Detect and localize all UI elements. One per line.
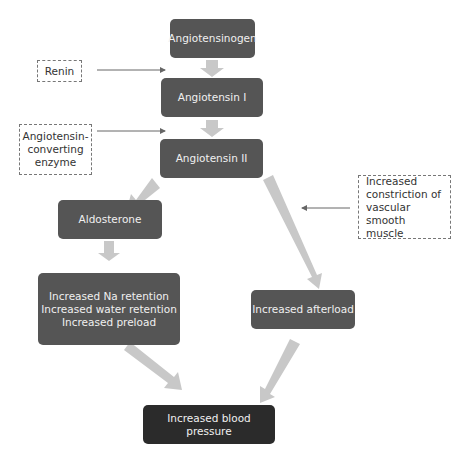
block-arrow-2	[200, 120, 224, 137]
block-arrow-6	[124, 342, 182, 390]
node-angiotensin-1: Angiotensin I	[161, 78, 263, 117]
note-label: Angiotensin- converting enzyme	[23, 130, 89, 169]
block-arrow-1	[200, 60, 224, 77]
node-label: Aldosterone	[79, 213, 142, 226]
note-vascular: Increased constriction of vascular smoot…	[358, 175, 451, 239]
block-arrow-5	[263, 175, 322, 289]
node-retention: Increased Na retention Increased water r…	[38, 273, 180, 345]
node-label: Angiotensin II	[176, 152, 248, 165]
note-ace: Angiotensin- converting enzyme	[19, 124, 92, 175]
note-renin: Renin	[37, 60, 82, 82]
node-label: Increased blood pressure	[143, 412, 275, 438]
node-angiotensin-2: Angiotensin II	[160, 139, 263, 178]
node-angiotensinogen: Angiotensinogen	[170, 19, 255, 58]
note-label: Increased constriction of vascular smoot…	[366, 175, 450, 240]
note-label: Renin	[45, 65, 75, 78]
block-arrow-7	[260, 339, 300, 403]
node-label: Angiotensin I	[178, 91, 247, 104]
block-arrow-4	[98, 241, 120, 261]
node-label: Angiotensinogen	[168, 32, 256, 45]
node-aldosterone: Aldosterone	[58, 200, 162, 239]
node-label: Increased Na retention Increased water r…	[41, 290, 177, 329]
node-afterload: Increased afterload	[251, 290, 355, 329]
node-blood-pressure: Increased blood pressure	[143, 405, 275, 444]
node-label: Increased afterload	[252, 303, 354, 316]
